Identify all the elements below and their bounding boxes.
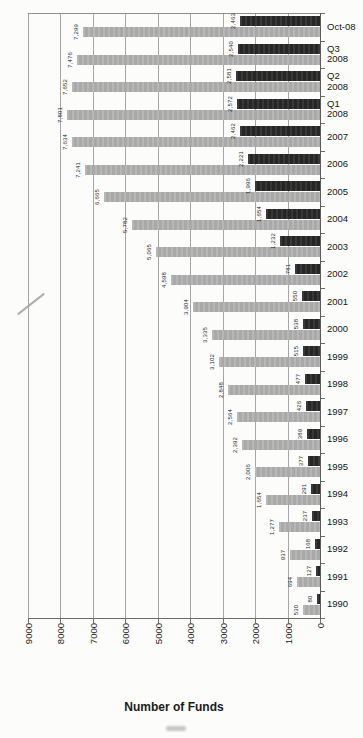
bar-black-bars-2003: [280, 236, 320, 246]
gridline-7000: [93, 13, 94, 618]
category-label-2001: 2001: [327, 297, 361, 308]
category-label-Q2-2008: Q22008: [327, 71, 361, 92]
category-label-Oct-08: Oct-08: [327, 22, 361, 33]
bar-value-label-black-bars-1997: 426: [296, 401, 302, 412]
bar-value-label-gray-bars-1997: 2,564: [227, 409, 233, 425]
bar-value-label-gray-bars-Q2-2008: 7,652: [62, 79, 68, 95]
category-tick: [321, 68, 325, 69]
bar-black-bars-Q1-2008: [237, 99, 320, 109]
bar-value-label-gray-bars-Oct-08: 7,299: [73, 24, 79, 40]
bar-value-label-black-bars-1992: 168: [305, 538, 311, 549]
bar-value-label-gray-bars-2006: 7,241: [75, 161, 81, 177]
bar-value-label-black-bars-Q2-2008: 2,581: [226, 68, 232, 84]
bar-value-label-gray-bars-1990: 530: [293, 604, 299, 615]
bar-value-label-gray-bars-2000: 3,335: [202, 326, 208, 342]
category-label-1996: 1996: [327, 434, 361, 445]
bar-gray-bars-1996: [242, 440, 320, 450]
value-tick-label-0: 0: [315, 623, 326, 628]
category-tick: [321, 426, 325, 427]
scan-mark: [17, 293, 45, 316]
bar-black-bars-2004: [266, 209, 320, 219]
value-tick-label-4000: 4000: [185, 623, 196, 644]
bar-black-bars-2002: [295, 264, 320, 274]
bar-gray-bars-1991: [297, 577, 320, 587]
category-tick: [321, 591, 325, 592]
bar-black-bars-2005: [255, 181, 320, 191]
bar-black-bars-Oct-08: [240, 16, 320, 26]
bar-gray-bars-2000: [212, 330, 320, 340]
category-label-Q3-2008: Q32008: [327, 44, 361, 65]
bar-gray-bars-1992: [290, 550, 320, 560]
bar-value-label-gray-bars-2001: 3,904: [183, 299, 189, 315]
bar-black-bars-2006: [248, 154, 320, 164]
category-label-2005: 2005: [327, 187, 361, 198]
category-tick: [321, 233, 325, 234]
value-tick-label-2000: 2000: [250, 623, 261, 644]
category-label-2002: 2002: [327, 269, 361, 280]
bar-value-label-gray-bars-Q1-2008: 7,801: [57, 106, 63, 122]
category-label-1998: 1998: [327, 379, 361, 390]
bar-black-bars-1993: [312, 511, 320, 521]
bar-gray-bars-Q1-2008: [67, 110, 320, 120]
bar-black-bars-2007: [240, 126, 320, 136]
bar-black-bars-1997: [306, 401, 320, 411]
category-tick: [321, 96, 325, 97]
bar-gray-bars-1994: [266, 495, 320, 505]
scan-smudge: [166, 726, 186, 731]
bar-value-label-gray-bars-1995: 2,006: [245, 464, 251, 480]
category-label-2003: 2003: [327, 242, 361, 253]
category-tick: [321, 453, 325, 454]
bar-value-label-gray-bars-1993: 1,277: [269, 519, 275, 535]
category-tick: [321, 618, 325, 619]
category-tick: [321, 261, 325, 262]
category-tick: [321, 13, 325, 14]
bar-value-label-black-bars-1995: 377: [298, 456, 304, 467]
bar-value-label-black-bars-2007: 2,462: [230, 123, 236, 139]
bar-gray-bars-1990: [303, 605, 320, 615]
bar-gray-bars-2004: [132, 220, 320, 230]
bar-gray-bars-Q3-2008: [77, 55, 320, 65]
gridline-3000: [223, 13, 224, 618]
bar-black-bars-1998: [305, 374, 320, 384]
category-label-1993: 1993: [327, 517, 361, 528]
bar-gray-bars-2001: [193, 302, 320, 312]
bar-value-label-gray-bars-1998: 2,848: [218, 381, 224, 397]
bar-gray-bars-2002: [171, 275, 320, 285]
category-tick: [321, 481, 325, 482]
value-tick-label-8000: 8000: [55, 623, 66, 644]
bar-value-label-gray-bars-Q3-2008: 7,476: [67, 51, 73, 67]
bar-gray-bars-2005: [104, 192, 320, 202]
gridline-5000: [158, 13, 159, 618]
bar-value-label-black-bars-Q3-2008: 2,540: [228, 40, 234, 56]
value-tick-label-1000: 1000: [283, 623, 294, 644]
category-tick: [321, 123, 325, 124]
category-label-2007: 2007: [327, 132, 361, 143]
category-tick: [321, 206, 325, 207]
category-tick: [321, 288, 325, 289]
bar-black-bars-1994: [311, 484, 320, 494]
category-tick: [321, 371, 325, 372]
bar-value-label-black-bars-1996: 389: [297, 428, 303, 439]
value-tick-label-3000: 3000: [218, 623, 229, 644]
bar-value-label-gray-bars-1996: 2,392: [232, 436, 238, 452]
bar-value-label-gray-bars-1999: 3,102: [209, 354, 215, 370]
bar-black-bars-2000: [303, 319, 320, 329]
bar-black-bars-2001: [302, 291, 320, 301]
bar-black-bars-1996: [307, 429, 320, 439]
bar-gray-bars-2003: [156, 247, 320, 257]
category-label-1994: 1994: [327, 489, 361, 500]
bar-value-label-gray-bars-1994: 1,654: [256, 491, 262, 507]
category-label-1992: 1992: [327, 544, 361, 555]
value-tick-label-9000: 9000: [23, 623, 34, 644]
scanned-chart-page: 9000800070006000500040003000200010000805…: [0, 0, 363, 738]
category-tick: [321, 398, 325, 399]
gridline-9000: [28, 13, 29, 618]
gridline-4000: [190, 13, 191, 618]
bar-value-label-gray-bars-2003: 5,065: [146, 244, 152, 260]
bar-gray-bars-2007: [72, 137, 320, 147]
bar-gray-bars-1998: [228, 385, 320, 395]
category-label-1995: 1995: [327, 462, 361, 473]
bar-gray-bars-1997: [237, 412, 320, 422]
bar-black-bars-1999: [303, 346, 320, 356]
bar-value-label-black-bars-2003: 1,232: [270, 233, 276, 249]
